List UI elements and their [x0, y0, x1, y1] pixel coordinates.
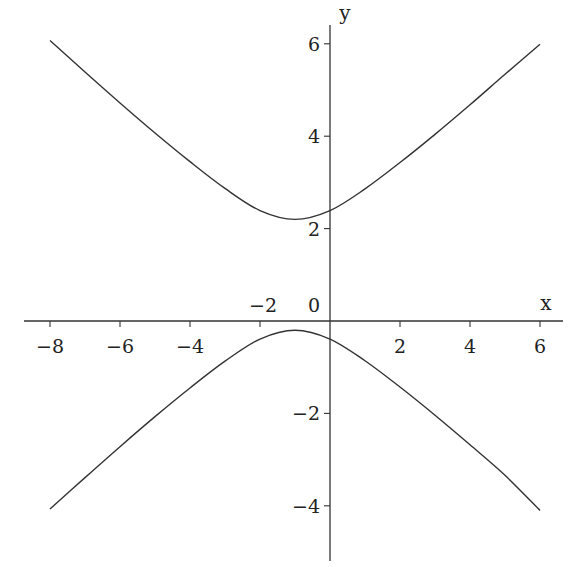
x-tick-label: −2 [249, 294, 277, 316]
x-tick-label: −6 [106, 335, 134, 357]
labels: −8−6−4−20246642−2−4xy [36, 1, 552, 517]
y-tick-label: −2 [292, 402, 320, 424]
y-tick-label: −4 [292, 495, 320, 517]
x-tick-label: −4 [176, 335, 204, 357]
x-tick-label: 4 [464, 335, 476, 357]
x-axis-label: x [540, 291, 552, 315]
y-tick-label: 6 [308, 33, 320, 55]
x-tick-label: 6 [534, 335, 546, 357]
axes [24, 25, 563, 561]
chart: −8−6−4−20246642−2−4xy [0, 0, 580, 567]
y-tick-label: 4 [308, 125, 320, 147]
x-tick-label: −8 [36, 335, 64, 357]
y-tick-label: 2 [308, 218, 320, 240]
x-tick-label: 2 [394, 335, 406, 357]
upper-branch-curve [50, 41, 540, 220]
series [50, 41, 540, 511]
y-axis-label: y [338, 1, 351, 25]
x-tick-label: 0 [308, 294, 320, 316]
